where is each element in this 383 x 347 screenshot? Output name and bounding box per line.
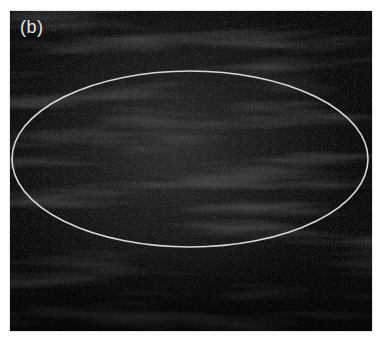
panel-label: (b)	[20, 17, 44, 38]
speckle-texture	[10, 11, 372, 331]
image-panel: (b)	[10, 11, 372, 331]
